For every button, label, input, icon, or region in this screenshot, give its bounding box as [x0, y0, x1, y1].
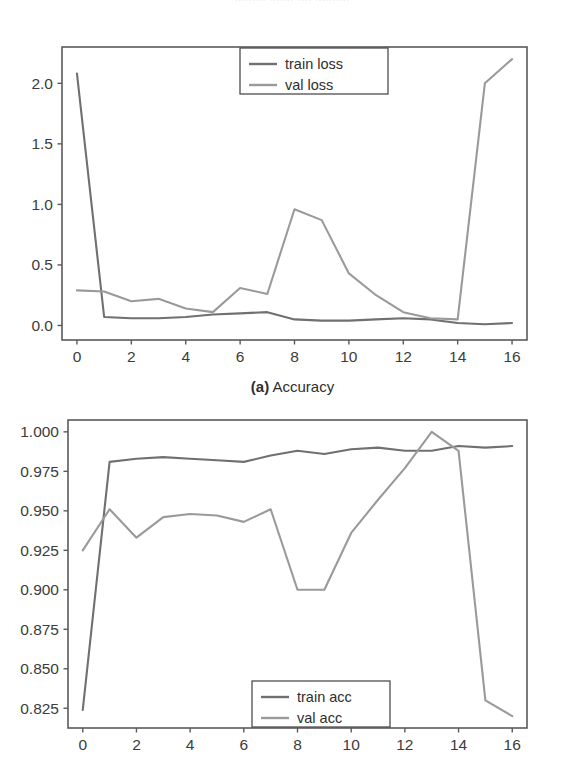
- loss-plot-wrapper: 0.00.51.01.52.00246810121416train lossva…: [0, 30, 585, 370]
- series-line-val-acc: [83, 432, 512, 716]
- x-tick-label: 2: [127, 348, 136, 365]
- figure-a-caption-text: Accuracy: [269, 378, 334, 395]
- y-tick-label: 0.825: [20, 700, 59, 717]
- page-top-cut-text: ......... ....... .... ..........: [0, 0, 585, 7]
- y-tick-label: 0.850: [20, 660, 59, 677]
- x-tick-label: 14: [450, 736, 468, 753]
- y-tick-label: 0.900: [20, 581, 59, 598]
- series-line-val-loss: [77, 59, 512, 319]
- y-tick-label: 0.925: [20, 542, 59, 559]
- y-tick-label: 0.875: [20, 621, 59, 638]
- x-tick-label: 4: [186, 736, 195, 753]
- x-tick-label: 12: [395, 348, 412, 365]
- accuracy-figure: 0.8250.8500.8750.9000.9250.9500.9751.000…: [0, 410, 585, 768]
- series-line-train-acc: [83, 446, 512, 710]
- legend-label-val-acc: val acc: [297, 710, 342, 726]
- x-tick-label: 12: [396, 736, 413, 753]
- x-tick-label: 16: [504, 736, 521, 753]
- y-tick-label: 1.000: [20, 423, 59, 440]
- figure-a-caption-prefix: (a): [251, 378, 269, 395]
- figure-a-caption: (a) Accuracy: [0, 378, 585, 395]
- y-tick-label: 0.975: [20, 463, 59, 480]
- x-tick-label: 2: [132, 736, 141, 753]
- x-tick-label: 6: [236, 348, 245, 365]
- y-tick-label: 1.0: [31, 196, 53, 213]
- loss-figure: 0.00.51.01.52.00246810121416train lossva…: [0, 30, 585, 370]
- accuracy-chart-svg: 0.8250.8500.8750.9000.9250.9500.9751.000…: [0, 410, 585, 768]
- x-tick-label: 6: [240, 736, 249, 753]
- x-tick-label: 8: [290, 348, 299, 365]
- legend-label-train-loss: train loss: [285, 56, 343, 72]
- y-tick-label: 0.0: [31, 317, 53, 334]
- x-tick-label: 8: [293, 736, 302, 753]
- y-tick-label: 0.5: [31, 256, 53, 273]
- x-tick-label: 4: [181, 348, 190, 365]
- x-tick-label: 0: [78, 736, 87, 753]
- loss-chart-svg: 0.00.51.01.52.00246810121416train lossva…: [0, 30, 585, 370]
- legend-label-train-acc: train acc: [297, 689, 352, 705]
- accuracy-plot-wrapper: 0.8250.8500.8750.9000.9250.9500.9751.000…: [0, 410, 585, 768]
- y-tick-label: 1.5: [31, 135, 53, 152]
- x-tick-label: 16: [503, 348, 520, 365]
- y-tick-label: 0.950: [20, 502, 59, 519]
- x-tick-label: 14: [449, 348, 467, 365]
- figure-page: ......... ....... .... .......... 0.00.5…: [0, 0, 585, 768]
- y-tick-label: 2.0: [31, 75, 53, 92]
- x-tick-label: 0: [73, 348, 82, 365]
- legend-label-val-loss: val loss: [285, 77, 333, 93]
- series-line-train-loss: [77, 74, 512, 325]
- x-tick-label: 10: [340, 348, 358, 365]
- x-tick-label: 10: [343, 736, 361, 753]
